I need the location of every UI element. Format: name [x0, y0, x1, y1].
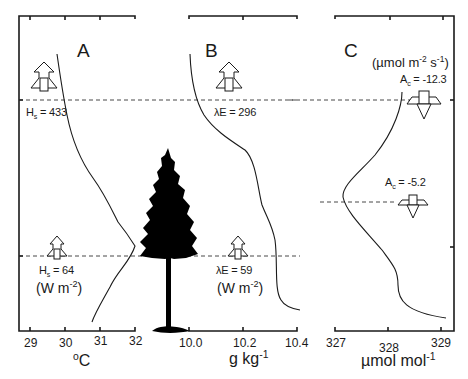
tick-label: 329 [431, 336, 451, 350]
sensible-heat-flux-bottom-label: Hs = 64 [39, 264, 74, 276]
panel-c-flux-unit: (µmol m-2 s-1) [372, 55, 449, 70]
co2-flux-top-label: Ac = -12.3 [400, 73, 447, 85]
dashed-height-lines [19, 100, 416, 256]
upward-flux-arrow-icon [228, 236, 248, 259]
panel-letter-a: A [77, 40, 90, 62]
downward-flux-arrow-icon [407, 91, 441, 119]
upward-flux-arrow-icon [47, 236, 67, 259]
tick-label: 10.2 [233, 336, 256, 350]
panel-c-axis-unit: µmol mol-1 [361, 352, 435, 370]
upward-flux-arrow-icon [31, 62, 57, 91]
panel-letter-c: C [344, 40, 358, 62]
panel-b-axis-unit: g kg-1 [229, 350, 269, 368]
co2-flux-bottom-label: Ac = -5.2 [385, 176, 426, 188]
tick-label: 30 [59, 336, 72, 350]
panel-a-axis-unit: oC [73, 352, 90, 370]
tick-label: 10.4 [285, 336, 308, 350]
panel-b-flux-unit: (W m-2) [217, 280, 263, 296]
panel-a-flux-unit: (W m-2) [36, 280, 82, 296]
tick-label: 32 [129, 334, 142, 348]
tick-label: 29 [24, 336, 37, 350]
downward-flux-arrow-icon [398, 195, 428, 218]
tick-label: 10.0 [179, 336, 202, 350]
upward-flux-arrow-icon [216, 62, 242, 91]
tick-label: 327 [326, 336, 346, 350]
co2-profile-curve [343, 92, 446, 318]
sensible-heat-flux-top-label: Hs = 433 [26, 106, 67, 118]
tick-label: 31 [94, 334, 107, 348]
conifer-tree-icon [140, 148, 198, 333]
latent-heat-flux-top-label: λE = 296 [214, 106, 256, 118]
latent-heat-flux-bottom-label: λE = 59 [216, 264, 252, 276]
panel-letter-b: B [205, 40, 218, 62]
